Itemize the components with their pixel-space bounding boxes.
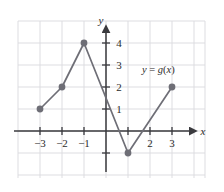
data-point <box>169 84 176 91</box>
x-tick-label-3: 3 <box>169 137 175 149</box>
curve-label: y = g(x) <box>141 64 175 76</box>
y-tick-label-3: 3 <box>116 59 122 71</box>
x-tick-label--3: −3 <box>34 137 46 149</box>
y-tick-label-2: 2 <box>116 81 122 93</box>
y-tick-label-1: 1 <box>116 103 122 115</box>
plot-background <box>0 0 224 192</box>
x-tick-label-2: 2 <box>147 137 153 149</box>
y-tick-label-4: 4 <box>116 37 122 49</box>
curve-label-equals: = <box>147 64 158 75</box>
data-point <box>37 106 44 113</box>
y-axis-label: y <box>98 14 104 26</box>
data-point <box>81 40 88 47</box>
graph-figure: −3 −2 −1 2 3 1 2 3 4 x y y = g(x) <box>0 0 224 192</box>
data-point <box>59 84 66 91</box>
x-axis-label: x <box>200 125 206 137</box>
curve-label-paren-close: ) <box>171 64 175 76</box>
x-tick-label--1: −1 <box>78 137 90 149</box>
function-graph-plot: −3 −2 −1 2 3 1 2 3 4 x y y = g(x) <box>0 0 224 192</box>
data-point <box>125 150 132 157</box>
x-tick-label--2: −2 <box>56 137 68 149</box>
